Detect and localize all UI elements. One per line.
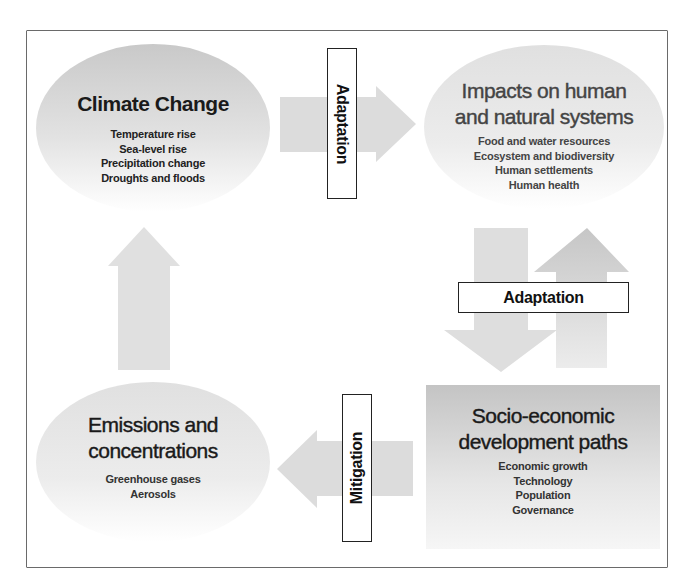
impacts-node: Impacts on human and natural systems Foo…: [426, 78, 662, 192]
adaptation-label-right-text: Adaptation: [503, 289, 584, 307]
mitigation-label: Mitigation: [342, 394, 372, 542]
socio-item: Population: [426, 488, 660, 503]
impacts-item: Human health: [426, 178, 662, 193]
impacts-item: Ecosystem and biodiversity: [426, 149, 662, 164]
socio-item: Governance: [426, 503, 660, 518]
emissions-node: Emissions and concentrations Greenhouse …: [40, 412, 266, 501]
emissions-item: Greenhouse gases: [40, 472, 266, 487]
climate-item: Droughts and floods: [40, 171, 266, 186]
emissions-item: Aerosols: [40, 487, 266, 502]
climate-change-node: Climate Change Temperature rise Sea-leve…: [40, 92, 266, 185]
socio-title-line-2: development paths: [426, 429, 660, 455]
climate-item: Sea-level rise: [40, 142, 266, 157]
socio-item: Technology: [426, 474, 660, 489]
impacts-item: Food and water resources: [426, 134, 662, 149]
socio-economic-node: Socio-economic development paths Economi…: [426, 403, 660, 517]
adaptation-label-top-text: Adaptation: [333, 83, 351, 164]
emissions-title-line-2: concentrations: [40, 438, 266, 464]
impacts-title-line-1: Impacts on human: [426, 78, 662, 104]
socio-item: Economic growth: [426, 459, 660, 474]
climate-change-title: Climate Change: [40, 92, 266, 116]
climate-item: Temperature rise: [40, 127, 266, 142]
socio-title-line-1: Socio-economic: [426, 403, 660, 429]
impacts-item: Human settlements: [426, 163, 662, 178]
climate-item: Precipitation change: [40, 156, 266, 171]
up-arrow-left: [108, 227, 180, 370]
adaptation-label-right: Adaptation: [458, 282, 629, 313]
adaptation-label-top: Adaptation: [327, 48, 357, 199]
emissions-title-line-1: Emissions and: [40, 412, 266, 438]
mitigation-label-text: Mitigation: [348, 432, 366, 505]
impacts-title-line-2: and natural systems: [426, 104, 662, 130]
